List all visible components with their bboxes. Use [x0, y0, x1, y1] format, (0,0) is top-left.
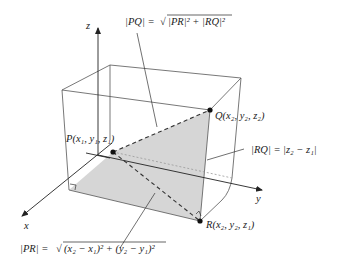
point-p — [110, 149, 115, 154]
y-axis-label: y — [255, 193, 261, 204]
svg-text:√: √ — [56, 243, 62, 254]
point-r-label: R(x₂, y₂, z₁) — [205, 219, 255, 231]
distance-3d-diagram: z y x P(x₁, y₁, z₁) Q(x₂, y₂, z₂) R(x₂, … — [0, 0, 341, 273]
point-q — [207, 107, 212, 112]
svg-text:|PR|² + |RQ|²: |PR|² + |RQ|² — [168, 16, 226, 27]
point-p-label: P(x₁, y₁, z₁) — [65, 133, 115, 145]
svg-text:|PR| =: |PR| = — [20, 243, 48, 254]
svg-text:(x₂ − x₁)² + (y₂ − y₁)²: (x₂ − x₁)² + (y₂ − y₁)² — [64, 243, 155, 255]
point-r — [197, 218, 202, 223]
z-axis-label: z — [85, 20, 90, 31]
point-q-label: Q(x₂, y₂, z₂) — [215, 110, 265, 122]
svg-text:|PQ| =: |PQ| = — [125, 16, 154, 27]
formula-rq: |RQ| = |z₂ − z₁| — [251, 144, 317, 155]
svg-text:√: √ — [160, 16, 166, 27]
x-axis-label: x — [23, 220, 29, 231]
formula-pq: |PQ| = √ |PR|² + |RQ|² — [125, 15, 232, 27]
formula-pr: |PR| = √ (x₂ − x₁)² + (y₂ − y₁)² — [20, 242, 166, 255]
